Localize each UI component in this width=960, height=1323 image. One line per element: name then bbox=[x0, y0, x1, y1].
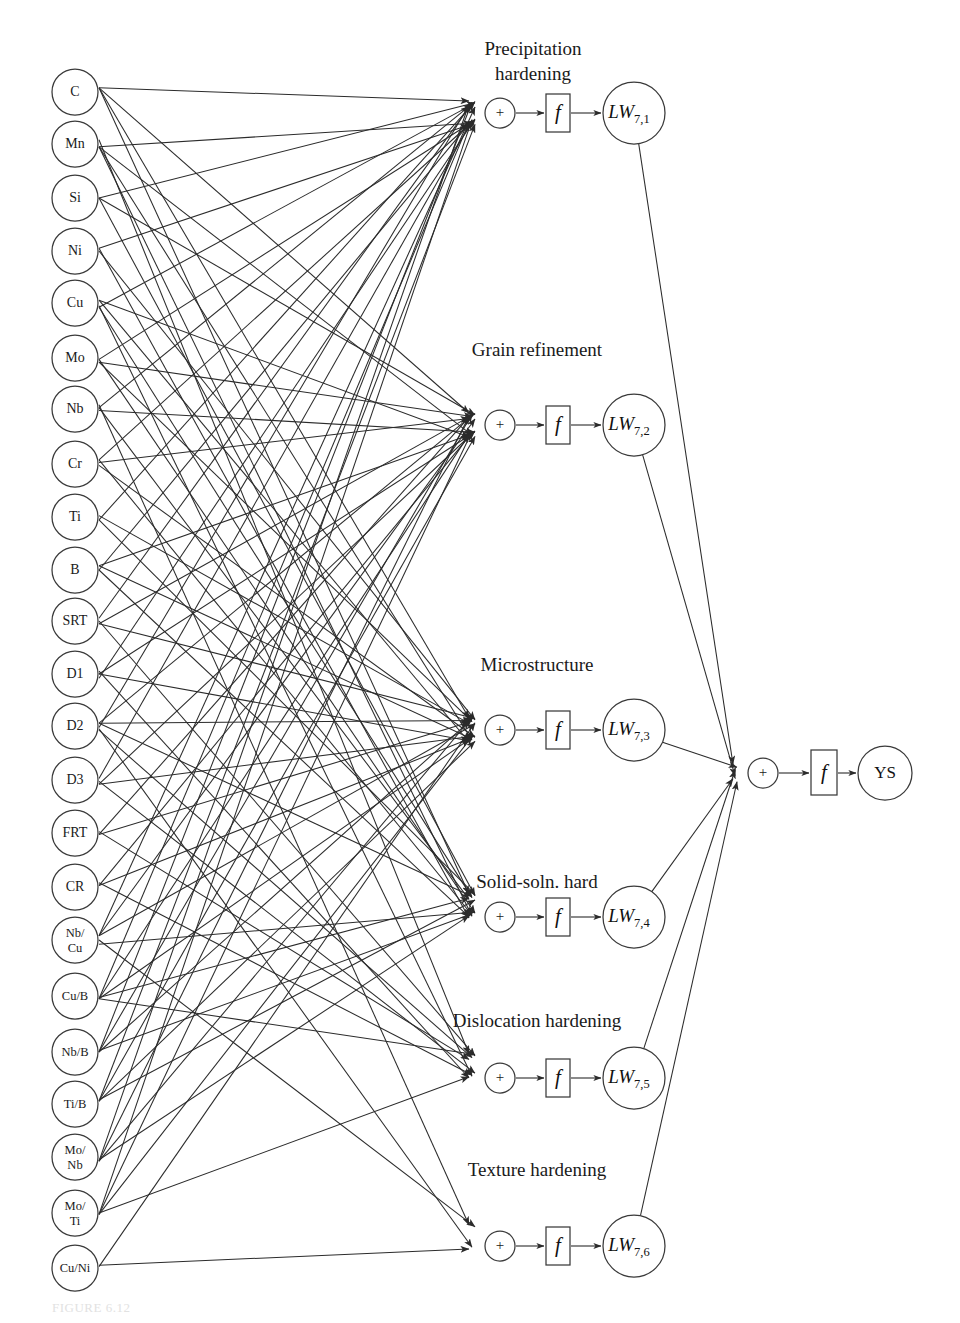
hidden-to-output-edge bbox=[652, 779, 733, 892]
input-node-mn[interactable]: Mn bbox=[52, 121, 98, 167]
sum-symbol: + bbox=[496, 104, 504, 120]
input-node-label: D2 bbox=[66, 718, 83, 733]
hidden-neuron-title: Solid-soln. hard bbox=[476, 871, 598, 892]
connection-edge bbox=[99, 88, 469, 718]
connection-edge bbox=[99, 251, 475, 720]
input-node-label: Cu/B bbox=[62, 989, 88, 1003]
layer-labels-group: PrecipitationhardeningGrain refinementMi… bbox=[453, 38, 622, 1180]
connection-edge bbox=[99, 88, 469, 101]
hidden-neuron-title: Grain refinement bbox=[472, 339, 603, 360]
hidden-neuron-precipitation-hardening[interactable]: +fLW7,1 bbox=[485, 82, 665, 144]
output-sum-symbol: + bbox=[759, 764, 767, 780]
input-node-ni[interactable]: Ni bbox=[52, 228, 98, 274]
input-node-label: Ti bbox=[70, 1214, 81, 1228]
input-node-ti-b[interactable]: Ti/B bbox=[52, 1081, 98, 1127]
connection-edge bbox=[99, 119, 475, 678]
input-node-label: Mo/ bbox=[65, 1199, 86, 1213]
connection-edge bbox=[99, 566, 472, 739]
input-node-d1[interactable]: D1 bbox=[52, 651, 98, 697]
connection-edge bbox=[99, 719, 472, 1052]
input-node-label: Nb/ bbox=[66, 926, 85, 940]
input-node-label: SRT bbox=[63, 613, 88, 628]
connection-edge bbox=[99, 147, 472, 916]
hidden-neuron-solid-soln-hard[interactable]: +fLW7,4 bbox=[485, 886, 665, 948]
output-node-group: +fYS bbox=[748, 746, 912, 800]
connection-edge bbox=[99, 435, 469, 999]
connection-edge bbox=[99, 940, 475, 1227]
input-node-label: Mo/ bbox=[65, 1143, 86, 1157]
input-node-label: FRT bbox=[63, 825, 88, 840]
hidden-neuron-title: Microstructure bbox=[481, 654, 594, 675]
connection-edge bbox=[99, 999, 475, 1055]
input-node-label: Ti/B bbox=[64, 1097, 86, 1111]
connection-edge bbox=[99, 1249, 469, 1265]
hidden-neuron-grain-refinement[interactable]: +fLW7,2 bbox=[485, 394, 665, 456]
connection-edge bbox=[99, 624, 475, 719]
hidden-neuron-title: Dislocation hardening bbox=[453, 1010, 622, 1031]
input-node-label: Ti bbox=[69, 509, 81, 524]
input-node-label: Cu bbox=[67, 295, 83, 310]
hidden-to-output-edge bbox=[639, 144, 733, 765]
input-node-mo-nb[interactable]: Mo/Nb bbox=[52, 1134, 98, 1180]
input-node-label: Mn bbox=[65, 136, 84, 151]
input-node-b[interactable]: B bbox=[52, 547, 98, 593]
input-node-label: Cr bbox=[68, 456, 82, 471]
input-node-d2[interactable]: D2 bbox=[52, 703, 98, 749]
input-node-nb[interactable]: Nb bbox=[52, 386, 98, 432]
connection-edge bbox=[99, 415, 472, 723]
figure-caption-faint: FIGURE 6.12 bbox=[52, 1300, 130, 1316]
connection-edge bbox=[99, 916, 469, 1160]
sum-symbol: + bbox=[496, 1069, 504, 1085]
input-node-label: D1 bbox=[66, 666, 83, 681]
connection-edge bbox=[99, 832, 469, 1060]
hidden-neuron-title: hardening bbox=[495, 63, 571, 84]
input-node-nb-cu[interactable]: Nb/Cu bbox=[52, 917, 98, 963]
sum-symbol: + bbox=[496, 908, 504, 924]
connection-edge bbox=[99, 147, 472, 435]
connection-edge bbox=[99, 721, 469, 1161]
connection-edge bbox=[99, 720, 472, 723]
connection-edge bbox=[99, 123, 469, 999]
hidden-to-output-edge bbox=[640, 782, 737, 1216]
input-node-label: Mo bbox=[65, 350, 84, 365]
input-node-frt[interactable]: FRT bbox=[52, 810, 98, 856]
hidden-neuron-microstructure[interactable]: +fLW7,3 bbox=[485, 699, 665, 761]
sum-symbol: + bbox=[496, 721, 504, 737]
connection-edge bbox=[99, 102, 475, 520]
input-node-mo[interactable]: Mo bbox=[52, 335, 98, 381]
input-node-c[interactable]: C bbox=[52, 69, 98, 115]
connection-edges bbox=[99, 88, 475, 1267]
hidden-neuron-title: Precipitation bbox=[484, 38, 582, 59]
input-node-ti[interactable]: Ti bbox=[52, 494, 98, 540]
input-node-cr[interactable]: CR bbox=[52, 864, 98, 910]
connection-edge bbox=[99, 307, 472, 897]
input-node-cr[interactable]: Cr bbox=[52, 441, 98, 487]
input-node-label: C bbox=[70, 84, 79, 99]
input-nodes-group: CMnSiNiCuMoNbCrTiBSRTD1D2D3FRTCRNb/CuCu/… bbox=[52, 69, 98, 1291]
hidden-neuron-dislocation-hardening[interactable]: +fLW7,5 bbox=[485, 1047, 665, 1109]
input-node-cu-ni[interactable]: Cu/Ni bbox=[52, 1245, 98, 1291]
input-node-label: Nb bbox=[67, 1158, 82, 1172]
input-node-srt[interactable]: SRT bbox=[52, 598, 98, 644]
connection-edge bbox=[99, 723, 475, 1267]
hidden-neuron-texture-hardening[interactable]: +fLW7,6 bbox=[485, 1215, 665, 1277]
input-node-si[interactable]: Si bbox=[52, 175, 98, 221]
neural-network-figure: CMnSiNiCuMoNbCrTiBSRTD1D2D3FRTCRNb/CuCu/… bbox=[0, 0, 960, 1323]
input-node-label: Cu/Ni bbox=[60, 1261, 91, 1275]
input-node-d3[interactable]: D3 bbox=[52, 757, 98, 803]
input-node-nb-b[interactable]: Nb/B bbox=[52, 1029, 98, 1075]
input-node-label: B bbox=[70, 562, 79, 577]
output-neuron[interactable]: +fYS bbox=[748, 746, 912, 800]
input-node-mo-ti[interactable]: Mo/Ti bbox=[52, 1190, 98, 1236]
hidden-neuron-title: Texture hardening bbox=[468, 1159, 607, 1180]
input-node-cu[interactable]: Cu bbox=[52, 280, 98, 326]
input-node-label: Ni bbox=[68, 243, 82, 258]
input-node-cu-b[interactable]: Cu/B bbox=[52, 973, 98, 1019]
input-node-label: Nb bbox=[66, 401, 83, 416]
input-node-label: D3 bbox=[66, 772, 83, 787]
input-node-label: Nb/B bbox=[61, 1045, 88, 1059]
input-node-label: Cu bbox=[68, 941, 83, 955]
sum-symbol: + bbox=[496, 416, 504, 432]
output-label: YS bbox=[874, 763, 896, 782]
connection-edge bbox=[99, 140, 469, 1054]
